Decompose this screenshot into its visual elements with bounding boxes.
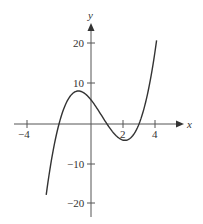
x-axis-label: x [186, 118, 192, 130]
x-tick-label: −4 [18, 128, 30, 140]
y-tick-label: 10 [73, 77, 85, 89]
x-tick-label: 4 [152, 128, 158, 140]
x-axis-arrow-icon [176, 121, 184, 128]
y-tick-label: 20 [73, 37, 85, 49]
function-curve [46, 40, 156, 195]
cubic-function-chart: x y −4 2 4 20 10 −10 −20 [0, 0, 203, 224]
y-tick-label: −20 [67, 197, 85, 209]
x-tick-label: 2 [120, 128, 126, 140]
y-axis-label: y [87, 9, 93, 21]
y-axis-arrow-icon [88, 23, 95, 31]
y-tick-label: −10 [67, 158, 85, 170]
